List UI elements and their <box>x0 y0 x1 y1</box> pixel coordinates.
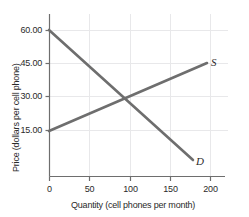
x-tick-label-200: 200 <box>197 184 224 194</box>
y-tick-label-60: 60.00 <box>8 25 42 35</box>
supply-curve-label: S <box>211 56 217 68</box>
demand-curve-label: D <box>196 155 204 167</box>
x-axis-title: Quantity (cell phones per month) <box>71 200 195 210</box>
x-tick-label-150: 150 <box>157 184 184 194</box>
x-tick-label-100: 100 <box>117 184 144 194</box>
x-tick-label-0: 0 <box>36 184 63 194</box>
supply-demand-chart: 60.00 45.00 30.00 15.00 0 50 100 150 200… <box>0 0 249 217</box>
x-tick-marks <box>50 177 211 182</box>
y-axis-title: Price (dollars per cell phone) <box>11 63 21 172</box>
gridlines <box>49 14 228 176</box>
x-tick-label-50: 50 <box>76 184 103 194</box>
axis-lines <box>50 14 226 177</box>
demand-curve <box>49 30 193 160</box>
